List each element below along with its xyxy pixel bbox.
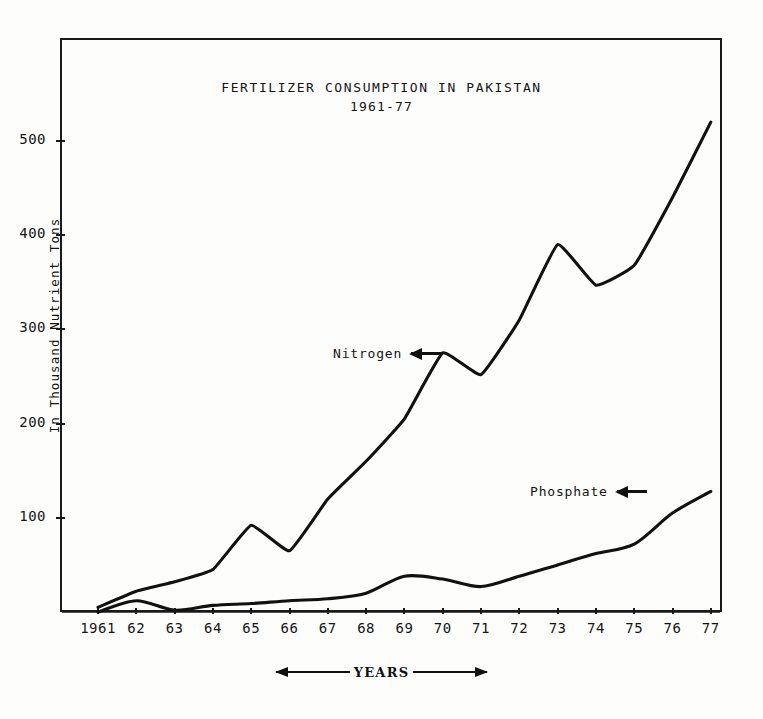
x-tick-mark	[633, 608, 635, 614]
x-tick-mark	[480, 608, 482, 614]
x-tick-mark	[289, 608, 291, 614]
x-tick-label: 68	[357, 620, 375, 636]
x-tick-mark	[135, 608, 137, 614]
x-tick-mark	[672, 608, 674, 614]
x-tick-mark	[403, 608, 405, 614]
left-arrow-icon	[276, 671, 350, 673]
x-axis-caption: YEARS	[0, 661, 763, 680]
right-arrow-icon	[413, 671, 487, 673]
x-tick-label: 76	[664, 620, 682, 636]
y-tick-label: 400	[0, 225, 46, 241]
x-tick-label: 1961	[80, 620, 116, 636]
y-tick-mark	[56, 234, 65, 236]
x-tick-label: 64	[204, 620, 222, 636]
x-tick-label: 75	[625, 620, 643, 636]
annotation-phosphate: Phosphate	[530, 484, 647, 499]
y-tick-mark	[56, 140, 65, 142]
x-tick-label: 69	[395, 620, 413, 636]
y-tick-mark	[56, 328, 65, 330]
x-tick-mark	[250, 608, 252, 614]
x-tick-label: 63	[166, 620, 184, 636]
annotation-nitrogen-label: Nitrogen	[333, 346, 411, 361]
x-tick-label: 74	[587, 620, 605, 636]
x-tick-label: 71	[472, 620, 490, 636]
y-tick-mark	[56, 423, 65, 425]
x-tick-label: 66	[281, 620, 299, 636]
x-tick-mark	[174, 608, 176, 614]
x-tick-mark	[518, 608, 520, 614]
x-tick-mark	[595, 608, 597, 614]
y-tick-label: 300	[0, 319, 46, 335]
y-tick-mark	[56, 517, 65, 519]
y-tick-label: 200	[0, 414, 46, 430]
x-tick-label: 70	[434, 620, 452, 636]
y-tick-label: 500	[0, 131, 46, 147]
x-tick-label: 67	[319, 620, 337, 636]
chart-title: FERTILIZER CONSUMPTION IN PAKISTAN	[0, 80, 763, 95]
x-tick-mark	[327, 608, 329, 614]
x-tick-label: 65	[242, 620, 260, 636]
x-tick-label: 72	[510, 620, 528, 636]
x-tick-mark	[365, 608, 367, 614]
x-tick-label: 77	[702, 620, 720, 636]
x-axis-caption-label: YEARS	[350, 665, 413, 680]
x-tick-mark	[212, 608, 214, 614]
x-tick-mark	[97, 608, 99, 614]
x-tick-mark	[710, 608, 712, 614]
left-arrow-icon	[411, 352, 441, 355]
chart-subtitle: 1961-77	[0, 99, 763, 114]
x-tick-mark	[442, 608, 444, 614]
annotation-phosphate-label: Phosphate	[530, 484, 617, 499]
y-tick-label: 100	[0, 508, 46, 524]
x-tick-label: 73	[549, 620, 567, 636]
x-tick-mark	[557, 608, 559, 614]
left-arrow-icon	[617, 490, 647, 493]
plot-frame	[60, 38, 722, 612]
annotation-nitrogen: Nitrogen	[333, 346, 441, 361]
figure-canvas: FERTILIZER CONSUMPTION IN PAKISTAN 1961-…	[0, 0, 763, 719]
x-tick-label: 62	[127, 620, 145, 636]
